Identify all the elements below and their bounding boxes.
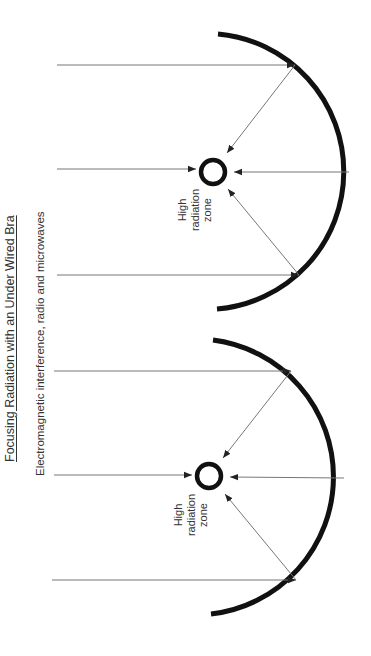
label-line: zone [201,189,214,231]
high-radiation-zone-label: High radiation zone [172,494,210,536]
label-line: radiation [189,189,202,231]
top-focusing-diagram [57,34,349,309]
high-radiation-focus-ring [201,160,225,184]
bottom-focusing-diagram [52,340,344,614]
high-radiation-focus-ring [197,464,221,488]
label-line: zone [197,494,210,536]
reflected-ray-arrow [230,477,344,478]
label-line: High [172,494,185,536]
label-line: radiation [185,494,198,536]
reflection-diagram [0,0,371,656]
label-line: High [176,189,189,231]
reflected-ray-arrow [223,371,291,458]
reflected-ray-arrow [225,494,296,580]
high-radiation-zone-label: High radiation zone [176,189,214,231]
reflected-ray-arrow [227,65,295,153]
reflected-ray-arrow [228,189,299,275]
